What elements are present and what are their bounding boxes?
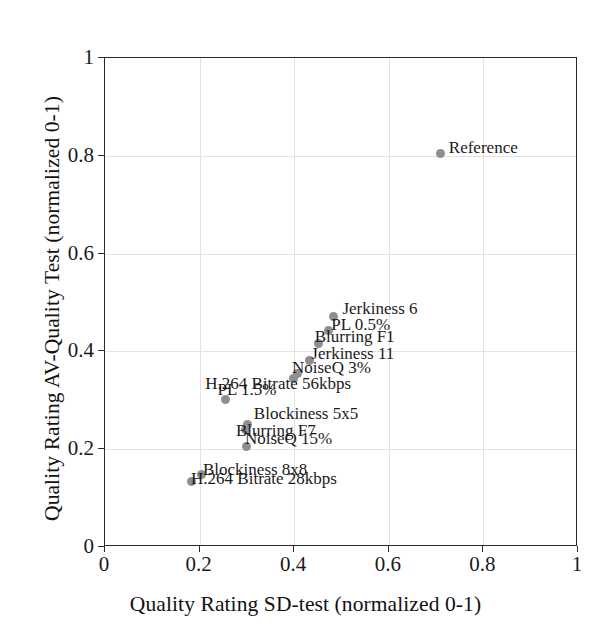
data-point-label: H.264 Bitrate 28kbps xyxy=(191,470,337,488)
x-tick-label: 0.6 xyxy=(358,551,418,577)
gridline-horizontal xyxy=(105,449,576,450)
gridline-horizontal xyxy=(105,254,576,255)
plot-area: ReferenceJerkiness 6PL 0.5%Blurring F1Je… xyxy=(104,57,577,546)
data-point-label: Reference xyxy=(449,139,518,157)
y-tick-mark xyxy=(98,155,104,156)
y-tick-mark xyxy=(98,57,104,58)
gridline-vertical xyxy=(483,58,484,545)
y-axis-title: Quality Rating AV-Quality Test (normaliz… xyxy=(40,29,65,589)
y-tick-mark xyxy=(98,546,104,547)
data-point-label: PL 1.5% xyxy=(218,381,277,399)
scatter-plot-figure: ReferenceJerkiness 6PL 0.5%Blurring F1Je… xyxy=(0,0,611,644)
x-axis-title: Quality Rating SD-test (normalized 0-1) xyxy=(0,592,611,617)
x-tick-label: 0.4 xyxy=(263,551,323,577)
data-point-label: NoiseQ 15% xyxy=(245,430,332,448)
x-tick-label: 0.2 xyxy=(169,551,229,577)
x-tick-label: 0.8 xyxy=(452,551,512,577)
y-tick-mark xyxy=(98,253,104,254)
y-tick-mark xyxy=(98,350,104,351)
y-tick-mark xyxy=(98,448,104,449)
x-tick-label: 1 xyxy=(547,551,607,577)
